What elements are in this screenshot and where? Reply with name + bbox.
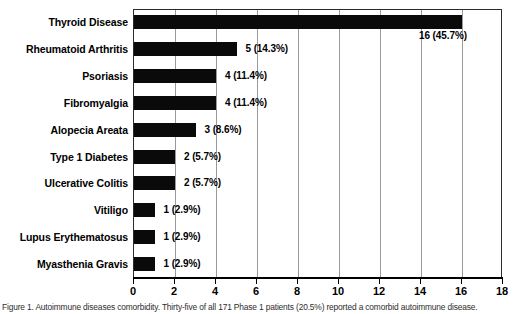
x-tick-label-2: 2 — [154, 285, 194, 298]
figure-caption: Figure 1. Autoimmune diseases comorbidit… — [2, 302, 513, 313]
bar-value-label: 2 (5.7%) — [184, 150, 221, 164]
x-tick-label-4: 4 — [195, 285, 235, 298]
bar — [134, 176, 175, 190]
bar-value-label: 1 (2.9%) — [164, 230, 201, 244]
bar-row: Alopecia Areata3 (8.6%) — [0, 117, 513, 144]
bar-value-label: 5 (14.3%) — [246, 42, 288, 56]
x-tick-label-0: 0 — [113, 285, 153, 298]
x-tick-label-18: 18 — [482, 285, 513, 298]
bar-value-label: 4 (11.4%) — [225, 69, 267, 83]
x-tick-0 — [133, 279, 134, 284]
bar-value-label: 4 (11.4%) — [225, 96, 267, 110]
x-tick-12 — [379, 279, 380, 284]
category-label: Rheumatoid Arthritis — [0, 36, 128, 63]
bar — [134, 42, 237, 56]
category-label: Vitiligo — [0, 197, 128, 224]
x-tick-8 — [297, 279, 298, 284]
x-tick-2 — [174, 279, 175, 284]
bar — [134, 150, 175, 164]
bar — [134, 15, 462, 29]
bar — [134, 203, 155, 217]
bar — [134, 123, 196, 137]
bar — [134, 96, 216, 110]
x-tick-label-8: 8 — [277, 285, 317, 298]
bar-value-label: 1 (2.9%) — [164, 203, 201, 217]
x-tick-4 — [215, 279, 216, 284]
x-tick-16 — [461, 279, 462, 284]
bar-row: Ulcerative Colitis2 (5.7%) — [0, 170, 513, 197]
bar — [134, 69, 216, 83]
x-tick-label-12: 12 — [359, 285, 399, 298]
x-tick-label-6: 6 — [236, 285, 276, 298]
bar-row: Thyroid Disease16 (45.7%) — [0, 9, 513, 36]
category-label: Alopecia Areata — [0, 117, 128, 144]
category-label: Lupus Erythematosus — [0, 224, 128, 251]
bar-row: Vitiligo1 (2.9%) — [0, 197, 513, 224]
bar-row: Psoriasis4 (11.4%) — [0, 63, 513, 90]
bar-row: Type 1 Diabetes2 (5.7%) — [0, 144, 513, 171]
category-label: Myasthenia Gravis — [0, 251, 128, 278]
bar-row: Fibromyalgia4 (11.4%) — [0, 90, 513, 117]
x-tick-label-14: 14 — [400, 285, 440, 298]
category-label: Psoriasis — [0, 63, 128, 90]
bar — [134, 230, 155, 244]
bar-chart-figure: Thyroid Disease16 (45.7%)Rheumatoid Arth… — [0, 0, 513, 314]
x-tick-6 — [256, 279, 257, 284]
bar-value-label: 2 (5.7%) — [184, 176, 221, 190]
bar-row: Myasthenia Gravis1 (2.9%) — [0, 251, 513, 278]
x-tick-label-16: 16 — [441, 285, 481, 298]
bar-value-label: 1 (2.9%) — [164, 257, 201, 271]
bar-row: Lupus Erythematosus1 (2.9%) — [0, 224, 513, 251]
x-tick-14 — [420, 279, 421, 284]
x-tick-18 — [502, 279, 503, 284]
bar-value-label: 3 (8.6%) — [205, 123, 242, 137]
bar-row: Rheumatoid Arthritis5 (14.3%) — [0, 36, 513, 63]
category-label: Fibromyalgia — [0, 90, 128, 117]
category-label: Ulcerative Colitis — [0, 170, 128, 197]
bar — [134, 257, 155, 271]
x-tick-label-10: 10 — [318, 285, 358, 298]
x-tick-10 — [338, 279, 339, 284]
category-label: Type 1 Diabetes — [0, 144, 128, 171]
category-label: Thyroid Disease — [0, 9, 128, 36]
